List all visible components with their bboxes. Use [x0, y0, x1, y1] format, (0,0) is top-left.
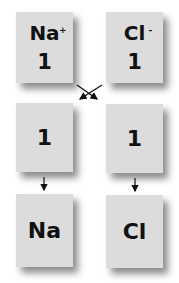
- arrows-layer: [0, 0, 179, 283]
- crossover-arrow-icon: [77, 85, 102, 99]
